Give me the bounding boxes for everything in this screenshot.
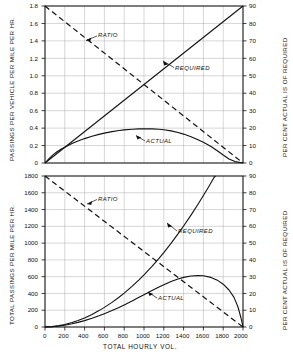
bottom-chart-annotation-arrowheads: [87, 201, 172, 296]
bottom-right-tick-7: 70: [249, 206, 256, 213]
bottom-right-tick-0: 0: [249, 323, 252, 330]
x-tick-7: 1400: [176, 332, 190, 339]
top-left-tick-2: 0.4: [16, 124, 38, 131]
bottom-left-tick-9: 1800: [12, 172, 38, 179]
top-chart-ratio-label: RATIO: [98, 32, 118, 38]
bottom-chart-required-curve: [45, 176, 216, 327]
x-tick-6: 1200: [156, 332, 170, 339]
bottom-left-tick-8: 1600: [12, 189, 38, 196]
top-left-tick-0: 0: [16, 159, 38, 166]
x-tick-9: 1800: [215, 332, 229, 339]
x-tick-1: 200: [58, 332, 68, 339]
top-right-tick-0: 0: [249, 159, 252, 166]
x-tick-10: 2000: [234, 332, 248, 339]
x-tick-4: 800: [118, 332, 128, 339]
bottom-left-tick-4: 800: [12, 256, 38, 263]
x-tick-3: 600: [98, 332, 108, 339]
top-left-tick-3: 0.6: [16, 107, 38, 114]
bottom-left-tick-1: 200: [12, 306, 38, 313]
bottom-left-tick-3: 600: [12, 273, 38, 280]
bottom-left-tick-7: 1400: [12, 206, 38, 213]
bottom-left-tick-0: 0: [12, 323, 38, 330]
top-right-tick-2: 20: [249, 124, 256, 131]
bottom-right-tick-4: 40: [249, 256, 256, 263]
bottom-chart-right-ticks: [243, 176, 247, 327]
bottom-right-tick-2: 20: [249, 290, 256, 297]
bottom-chart-x-ticks: [45, 327, 243, 331]
bottom-right-tick-9: 90: [249, 172, 256, 179]
x-tick-5: 1000: [136, 332, 150, 339]
bottom-chart-required-label: REQUIRED: [178, 228, 213, 234]
top-right-tick-4: 40: [249, 89, 256, 96]
bottom-right-tick-1: 10: [249, 306, 256, 313]
top-left-tick-6: 1.2: [16, 55, 38, 62]
top-right-tick-5: 50: [249, 72, 256, 79]
x-tick-0: 0: [43, 332, 46, 339]
bottom-right-tick-5: 50: [249, 239, 256, 246]
top-chart-left-ticks: [42, 6, 46, 163]
top-chart-required-label: REQUIRED: [175, 65, 210, 71]
top-right-tick-6: 60: [249, 55, 256, 62]
bottom-right-tick-6: 60: [249, 222, 256, 229]
bottom-right-tick-3: 30: [249, 273, 256, 280]
bottom-chart-ratio-label: RATIO: [98, 196, 118, 202]
top-left-tick-9: 1.8: [16, 2, 38, 9]
top-left-tick-4: 0.8: [16, 89, 38, 96]
top-left-tick-1: 0.2: [16, 142, 38, 149]
top-left-tick-7: 1.4: [16, 37, 38, 44]
top-left-tick-8: 1.6: [16, 20, 38, 27]
x-tick-2: 400: [78, 332, 88, 339]
bottom-chart-actual-label: ACTUAL: [158, 295, 184, 301]
bottom-left-tick-5: 1000: [12, 239, 38, 246]
top-chart-right-ticks: [243, 6, 247, 163]
top-chart-actual-label: ACTUAL: [146, 138, 172, 144]
figure-container: PASSINGS PER VEHICLE PER MILE PER HR. PE…: [0, 0, 293, 355]
top-right-tick-7: 70: [249, 37, 256, 44]
bottom-left-tick-6: 1200: [12, 222, 38, 229]
bottom-left-tick-2: 400: [12, 290, 38, 297]
top-chart-annotation-leaders: [86, 36, 174, 141]
top-chart-annotation-arrowheads: [86, 38, 168, 140]
top-right-tick-1: 10: [249, 142, 256, 149]
top-right-tick-3: 30: [249, 107, 256, 114]
top-right-tick-8: 80: [249, 20, 256, 27]
bottom-right-tick-8: 80: [249, 189, 256, 196]
x-tick-8: 1600: [195, 332, 209, 339]
bottom-chart-left-ticks: [42, 176, 46, 327]
top-right-tick-9: 90: [249, 2, 256, 9]
top-left-tick-5: 1.0: [16, 72, 38, 79]
bottom-chart-annotation-leaders: [87, 200, 177, 299]
